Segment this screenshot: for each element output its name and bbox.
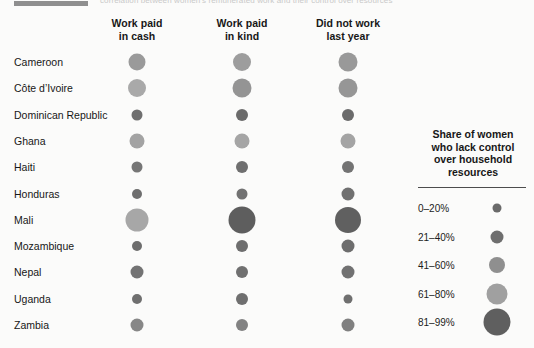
row-label-ghana: Ghana [14,135,46,147]
bubble [235,133,250,148]
column-header-line2: in kind [182,30,302,43]
bubble [132,189,142,199]
column-header-line1: Did not work [316,17,380,29]
bubble [342,187,355,200]
bubble [342,319,355,332]
row-label-c-te-d-ivoire: Côte d’Ivoire [14,82,73,94]
row-label-cameroon: Cameroon [14,56,63,68]
bubble [236,240,248,252]
bubble [236,293,248,305]
column-header-3: Did not worklast year [288,17,408,42]
legend-title-line-1: Share of women [417,128,529,141]
row-label-nepal: Nepal [14,266,41,278]
bubble [233,79,252,98]
bubble [132,109,143,120]
bubble [132,162,143,173]
bubble [342,161,354,173]
column-header-1: Work paidin cash [77,17,197,42]
bubble [132,241,142,251]
legend-title: Share of womenwho lack controlover house… [417,128,529,178]
title-text: correlation between women's remunerated … [100,0,392,6]
legend-divider [418,187,526,188]
bubble [342,109,354,121]
bubble [229,206,256,233]
bubble [132,294,142,304]
legend-bubble-1 [493,204,502,213]
column-header-line1: Work paid [111,17,162,29]
row-label-honduras: Honduras [14,188,60,200]
bubble [126,208,149,231]
row-label-mozambique: Mozambique [14,240,74,252]
legend-bubble-5 [484,309,511,336]
bubble [236,266,248,278]
legend-label-3: 41–60% [418,260,455,271]
legend-bubble-3 [489,257,505,273]
bubble [130,133,145,148]
bubble [342,240,355,253]
legend-label-4: 61–80% [418,288,455,299]
row-label-mali: Mali [14,214,33,226]
bubble [236,109,248,121]
legend-label-5: 81–99% [418,317,455,328]
legend-title-line-3: over household [417,153,529,166]
row-label-zambia: Zambia [14,319,49,331]
column-header-line2: last year [288,30,408,43]
column-header-line2: in cash [77,30,197,43]
bubble [131,266,144,279]
title-accent-rule [14,1,88,6]
bubble [236,161,248,173]
cutoff-title-strip: correlation between women's remunerated … [0,0,534,11]
row-label-dominican-republic: Dominican Republic [14,109,107,121]
bubble [237,188,248,199]
row-label-haiti: Haiti [14,161,35,173]
bubble [344,294,353,303]
legend: Share of womenwho lack controlover house… [412,128,534,178]
legend-label-2: 21–40% [418,231,455,242]
bubble [341,133,356,148]
bubble [339,79,358,98]
legend-title-line-2: who lack control [417,141,529,154]
bubble [131,319,144,332]
bubble [339,53,358,72]
bubble [233,53,251,71]
bubble [335,207,361,233]
bubble [128,79,146,97]
bubble [236,319,248,331]
legend-bubble-4 [487,283,508,304]
bubble [129,54,146,71]
bubble [342,266,355,279]
legend-bubble-2 [491,230,504,243]
legend-label-1: 0–20% [418,203,449,214]
row-label-uganda: Uganda [14,293,51,305]
legend-title-line-4: resources [417,166,529,179]
column-header-line1: Work paid [216,17,267,29]
column-header-2: Work paidin kind [182,17,302,42]
